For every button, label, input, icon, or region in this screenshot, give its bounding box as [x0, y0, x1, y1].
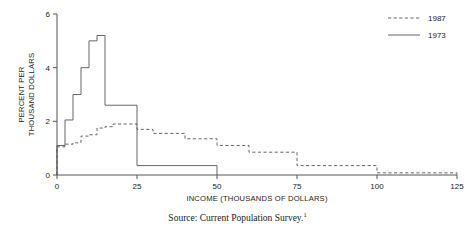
series-1987 — [57, 124, 457, 175]
source-text: Source: Current Population Survey. — [168, 213, 303, 223]
footnote-marker: 1 — [303, 211, 306, 218]
plot-area: 02460255075100125INCOME (THOUSANDS OF DO… — [17, 10, 464, 203]
x-axis-tick-label: 75 — [293, 182, 302, 191]
x-axis-tick-label: 125 — [450, 182, 464, 191]
legend-label-1973: 1973 — [428, 31, 446, 40]
y-axis-tick-label: 6 — [46, 10, 51, 19]
x-axis-tick-label: 100 — [370, 182, 384, 191]
y-axis-title-line1: PERCENT PER — [17, 66, 26, 122]
y-axis-tick-label: 2 — [46, 117, 51, 126]
y-axis-tick-label: 0 — [46, 171, 51, 180]
series-1973 — [57, 35, 217, 175]
chart-figure: 02460255075100125INCOME (THOUSANDS OF DO… — [0, 0, 475, 235]
legend-label-1987: 1987 — [428, 14, 446, 23]
x-axis-tick-label: 50 — [213, 182, 222, 191]
x-axis-tick-label: 25 — [133, 182, 142, 191]
chart-svg: 02460255075100125INCOME (THOUSANDS OF DO… — [0, 0, 475, 235]
y-axis-title-line2: THOUSAND DOLLARS — [27, 53, 36, 136]
x-axis-title: INCOME (THOUSANDS OF DOLLARS) — [186, 194, 328, 203]
x-axis-tick-label: 0 — [55, 182, 60, 191]
source-note: Source: Current Population Survey.1 — [0, 211, 475, 223]
y-axis-tick-label: 4 — [46, 64, 51, 73]
